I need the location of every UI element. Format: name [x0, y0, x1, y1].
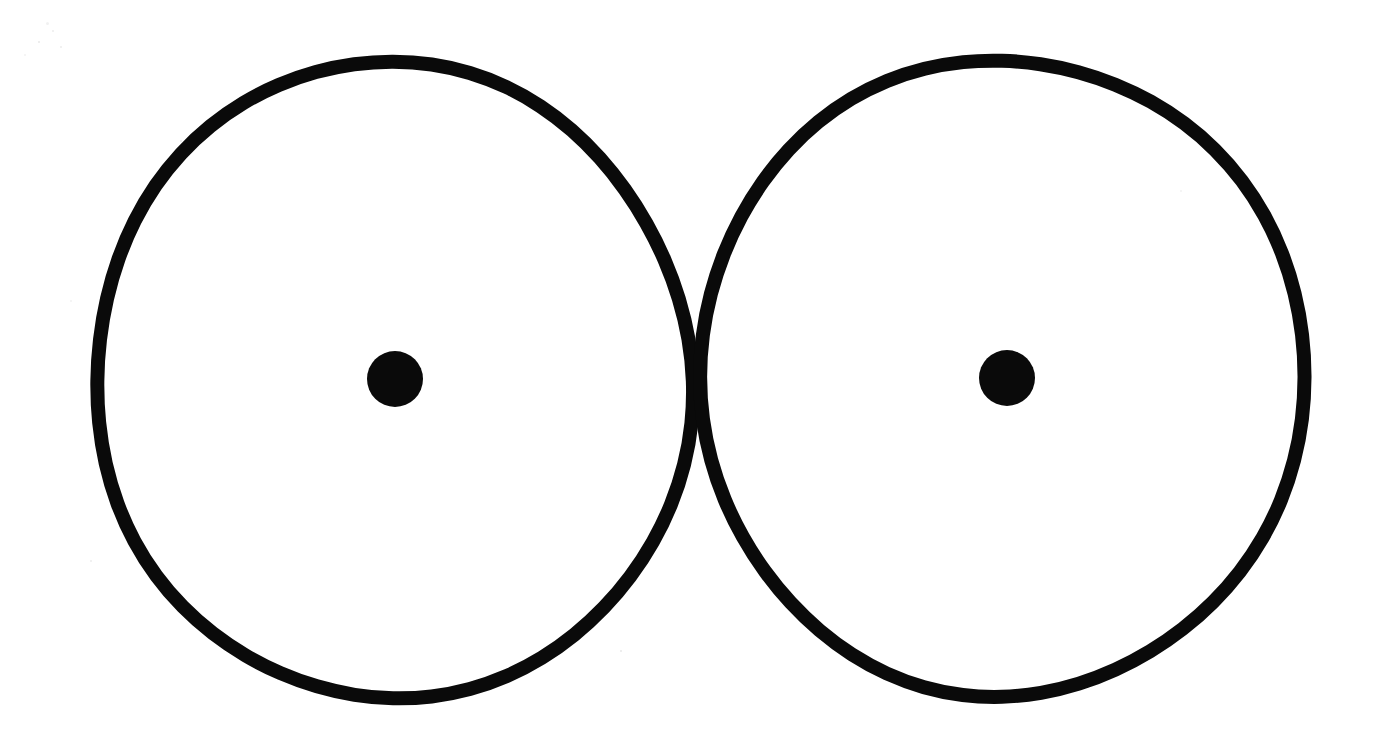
- left-center-dot: [367, 351, 423, 407]
- two-circles-figure: Two large hand-drawn open circles side b…: [0, 0, 1376, 749]
- drawing-canvas: Two large hand-drawn open circles side b…: [0, 0, 1376, 749]
- left-circle-group: [97, 62, 693, 699]
- right-center-dot: [979, 350, 1035, 406]
- right-circle-group: [700, 61, 1304, 697]
